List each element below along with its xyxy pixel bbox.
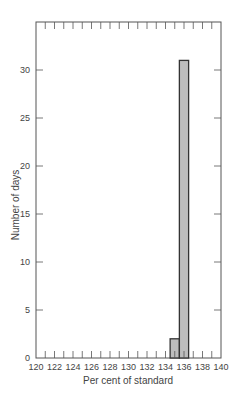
y-tick-label: 10: [20, 257, 30, 267]
plot-frame: [36, 22, 221, 358]
y-axis-ticks: 051015202530: [20, 65, 221, 363]
x-tick-label: 140: [213, 362, 228, 372]
y-tick-label: 20: [20, 161, 30, 171]
x-tick-label: 130: [121, 362, 136, 372]
x-axis-title: Per cent of standard: [83, 375, 173, 386]
x-tick-label: 132: [139, 362, 154, 372]
plot-border: [36, 22, 221, 358]
y-axis-title: Number of days: [10, 170, 21, 241]
x-axis-ticks: 120122124126128130132134136138140: [28, 22, 228, 372]
y-tick-label: 30: [20, 65, 30, 75]
histogram-bars: [170, 60, 189, 358]
y-tick-label: 15: [20, 209, 30, 219]
x-tick-label: 136: [176, 362, 191, 372]
x-tick-label: 134: [158, 362, 173, 372]
x-tick-label: 126: [84, 362, 99, 372]
x-tick-label: 122: [47, 362, 62, 372]
x-tick-label: 128: [102, 362, 117, 372]
histogram-chart: 120122124126128130132134136138140 051015…: [0, 0, 236, 403]
x-tick-label: 124: [65, 362, 80, 372]
x-tick-label: 138: [195, 362, 210, 372]
x-tick-label: 120: [28, 362, 43, 372]
y-tick-label: 5: [25, 305, 30, 315]
y-tick-label: 0: [25, 353, 30, 363]
y-tick-label: 25: [20, 113, 30, 123]
histogram-bar: [179, 60, 188, 358]
